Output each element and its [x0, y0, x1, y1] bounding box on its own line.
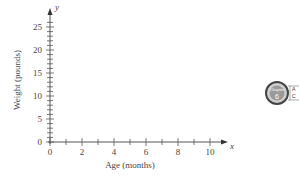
y-axis-title: Weight (pounds): [12, 50, 22, 110]
badge-side-text-1: A: [292, 86, 296, 92]
y-axis: 0510152025: [33, 8, 54, 147]
x-tick-label: 10: [206, 147, 216, 157]
badge-label: Chapter: [270, 87, 285, 92]
y-tick-label: 20: [33, 45, 43, 55]
y-tick-label: 25: [33, 22, 43, 32]
y-tick-label: 10: [33, 91, 43, 101]
chart-canvas: 0510152025 0246810 y x Age (months) Weig…: [0, 0, 299, 181]
x-tick-label: 6: [144, 147, 149, 157]
x-tick-label: 0: [48, 147, 53, 157]
x-tick-label: 8: [176, 147, 181, 157]
x-tick-label: 4: [112, 147, 117, 157]
x-axis: 0246810: [48, 138, 228, 157]
y-tick-label: 0: [38, 137, 43, 147]
y-axis-var-label: y: [54, 2, 59, 12]
y-tick-label: 5: [38, 114, 43, 124]
badge-number: 6: [275, 93, 279, 100]
chapter-badge: Chapter 6 A C: [266, 82, 299, 104]
x-axis-var-label: x: [229, 141, 234, 151]
badge-side-text-2: C: [292, 93, 296, 99]
x-axis-title: Age (months): [105, 160, 155, 170]
x-axis-arrow-icon: [221, 140, 228, 145]
y-axis-arrow-icon: [48, 8, 53, 15]
y-tick-label: 15: [33, 68, 43, 78]
x-tick-label: 2: [80, 147, 85, 157]
